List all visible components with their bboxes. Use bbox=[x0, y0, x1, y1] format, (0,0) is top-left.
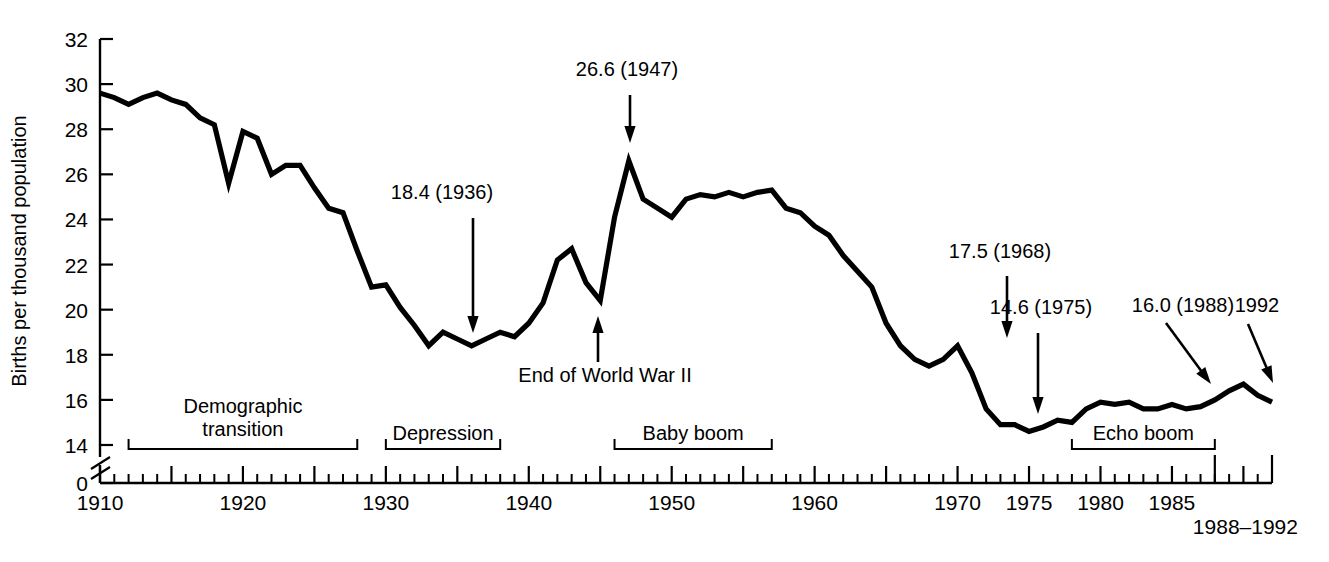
y-axis: 014161820222426283032Births per thousand… bbox=[8, 28, 113, 495]
annotation-arrow-head bbox=[1032, 397, 1043, 414]
chart-annotations: 18.4 (1936)26.6 (1947)End of World War I… bbox=[391, 58, 1279, 414]
x-axis-tick-label: 1970 bbox=[934, 491, 981, 514]
y-axis-title: Births per thousand population bbox=[8, 115, 30, 386]
x-axis-range-label: 1988–1992 bbox=[1193, 515, 1298, 538]
annotation-arrow-head bbox=[592, 316, 603, 333]
y-axis-tick-label: 32 bbox=[65, 28, 88, 51]
y-axis-tick-label: 20 bbox=[65, 299, 88, 322]
x-axis-tick-label: 1940 bbox=[505, 491, 552, 514]
annotation-arrow-head bbox=[467, 316, 478, 333]
anno-1988: 16.0 (1988) bbox=[1132, 294, 1234, 384]
annotation-arrow-shaft bbox=[1166, 323, 1203, 373]
y-axis-tick-label: 26 bbox=[65, 163, 88, 186]
y-axis-tick-label: 24 bbox=[65, 208, 89, 231]
anno-1936: 18.4 (1936) bbox=[391, 181, 493, 333]
annotation-arrow-head bbox=[624, 126, 635, 143]
birth-rate-chart-figure: 014161820222426283032Births per thousand… bbox=[0, 0, 1329, 562]
anno-1975: 14.6 (1975) bbox=[990, 296, 1092, 414]
bracket-baby-boom: Baby boom bbox=[615, 422, 772, 449]
anno-1947: 26.6 (1947) bbox=[576, 58, 678, 143]
x-axis-tick-label: 1950 bbox=[648, 491, 695, 514]
y-axis-tick-label: 18 bbox=[65, 344, 88, 367]
y-axis-tick-label: 14 bbox=[65, 434, 89, 457]
annotation-arrow-head bbox=[1001, 321, 1012, 338]
annotation-label: 1992 bbox=[1235, 294, 1280, 316]
bracket-demographic-transition: Demographictransition bbox=[129, 395, 358, 449]
annotation-label: 17.5 (1968) bbox=[949, 240, 1051, 262]
bracket-label-line2: transition bbox=[202, 418, 283, 440]
y-axis-tick-label: 16 bbox=[65, 389, 88, 412]
x-axis-tick-label: 1985 bbox=[1149, 491, 1196, 514]
x-axis-tick-label: 1930 bbox=[362, 491, 409, 514]
bracket-depression: Depression bbox=[386, 422, 500, 449]
annotation-label: 26.6 (1947) bbox=[576, 58, 678, 80]
x-axis-tick-label: 1920 bbox=[220, 491, 267, 514]
annotation-arrow-head bbox=[1196, 367, 1211, 384]
x-axis-tick-label: 1910 bbox=[77, 491, 124, 514]
annotation-arrow-shaft bbox=[1248, 324, 1268, 370]
x-axis: 1910192019301940195019601970197519801985… bbox=[77, 455, 1298, 538]
x-axis-tick-label: 1980 bbox=[1077, 491, 1124, 514]
bracket-rule bbox=[129, 439, 358, 449]
bracket-label: Baby boom bbox=[643, 422, 744, 444]
annotation-arrow-head bbox=[1261, 365, 1273, 383]
x-axis-tick-label: 1975 bbox=[1006, 491, 1053, 514]
annotation-label: 14.6 (1975) bbox=[990, 296, 1092, 318]
anno-1992: 1992 bbox=[1235, 294, 1280, 383]
anno-1968: 17.5 (1968) bbox=[949, 240, 1051, 338]
anno-wwii: End of World War II bbox=[518, 316, 691, 386]
y-axis-tick-label: 30 bbox=[65, 73, 88, 96]
bracket-label: Depression bbox=[392, 422, 493, 444]
y-axis-tick-label: 22 bbox=[65, 254, 88, 277]
annotation-label: End of World War II bbox=[518, 364, 691, 386]
y-axis-tick-label: 28 bbox=[65, 118, 88, 141]
chart-canvas: 014161820222426283032Births per thousand… bbox=[0, 0, 1329, 562]
annotation-label: 18.4 (1936) bbox=[391, 181, 493, 203]
bracket-echo-boom: Echo boom bbox=[1072, 422, 1215, 449]
bracket-label: Echo boom bbox=[1093, 422, 1194, 444]
annotation-label: 16.0 (1988) bbox=[1132, 294, 1234, 316]
x-axis-tick-label: 1960 bbox=[791, 491, 838, 514]
bracket-label-line1: Demographic bbox=[183, 395, 302, 417]
